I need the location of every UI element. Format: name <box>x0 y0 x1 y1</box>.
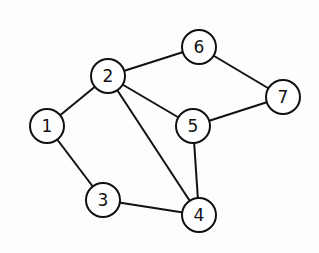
node-4-label: 4 <box>182 198 216 232</box>
node-2-label: 2 <box>91 59 125 93</box>
node-5-label: 5 <box>176 109 210 143</box>
node-1-label: 1 <box>30 109 64 143</box>
node-3-label: 3 <box>86 183 120 217</box>
node-7-label: 7 <box>266 80 300 114</box>
edge-2-4 <box>108 76 199 215</box>
node-6-label: 6 <box>182 30 216 64</box>
graph-diagram: 1 2 3 4 5 6 7 <box>0 0 319 253</box>
